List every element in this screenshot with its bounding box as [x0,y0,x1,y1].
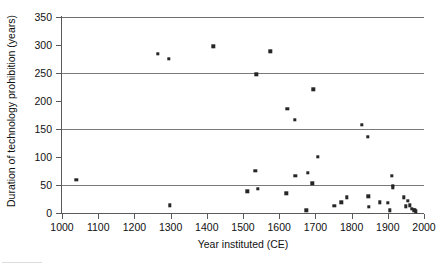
gridline-350 [62,17,424,18]
data-point [306,171,309,174]
x-tick-1300 [171,214,172,219]
x-axis-title: Year instituted (CE) [62,238,424,250]
data-point [294,174,297,177]
y-axis-title: Duration of technology prohibition (year… [0,0,22,222]
y-tick-label-text: 250 [26,68,52,79]
x-tick-label-text: 1900 [368,221,408,234]
y-tick-label-text: 0 [26,208,52,219]
data-point [391,186,394,189]
y-tick-label-0: 0 [24,208,52,219]
y-tick-300 [56,45,62,46]
y-tick-100 [56,157,62,158]
data-point [75,178,78,181]
data-point [345,196,348,199]
data-point [316,155,319,158]
data-point [256,187,259,190]
x-tick-label-1600: 1600 [259,221,299,234]
data-point [246,189,249,192]
data-point [310,182,313,185]
y-tick-label-text: 350 [26,12,52,23]
gridline-50 [62,185,424,186]
x-tick-label-1700: 1700 [295,221,335,234]
data-point [168,203,171,206]
x-tick-1700 [315,214,316,219]
data-point [333,204,336,207]
x-tick-1800 [352,214,353,219]
x-tick-label-text: 1300 [151,221,191,234]
x-tick-label-text: 1400 [187,221,227,234]
y-tick-label-300: 300 [24,40,52,51]
x-tick-label-1000: 1000 [42,221,82,234]
data-point [285,107,288,110]
data-point [366,135,369,138]
x-tick-label-text: 1600 [259,221,299,234]
x-tick-label-text: 2000 [404,221,444,234]
data-point [254,169,257,172]
x-tick-label-1500: 1500 [223,221,263,234]
x-tick-label-text: 1700 [295,221,335,234]
data-point [408,203,411,206]
data-point [293,118,296,121]
data-point [255,72,258,75]
y-axis-title-text: Duration of technology prohibition (year… [5,15,17,207]
data-point [156,52,159,55]
y-tick-label-text: 100 [26,152,52,163]
plot-area [62,17,424,213]
x-tick-label-text: 1800 [332,221,372,234]
data-point [402,196,405,199]
y-tick-150 [56,129,62,130]
x-tick-label-1100: 1100 [78,221,118,234]
y-tick-label-100: 100 [24,152,52,163]
gridline-250 [62,73,424,74]
data-point [414,210,417,213]
y-tick-label-150: 150 [24,124,52,135]
x-tick-label-text: 1000 [42,221,82,234]
x-tick-label-1300: 1300 [151,221,191,234]
y-tick-label-350: 350 [24,12,52,23]
data-point [268,49,271,52]
x-tick-2000 [424,214,425,219]
y-tick-label-text: 200 [26,96,52,107]
y-tick-50 [56,185,62,186]
x-tick-label-text: 1500 [223,221,263,234]
y-tick-250 [56,73,62,74]
x-tick-1100 [98,214,99,219]
y-tick-label-text: 150 [26,124,52,135]
y-tick-label-text: 300 [26,40,52,51]
data-point [388,208,391,211]
data-point [378,201,381,204]
scan-artifact-line [2,262,42,263]
data-point [285,192,288,195]
data-point [305,208,308,211]
x-tick-label-1900: 1900 [368,221,408,234]
x-tick-1000 [62,214,63,219]
gridline-150 [62,129,424,130]
x-tick-label-1200: 1200 [114,221,154,234]
data-point [360,123,363,126]
y-tick-350 [56,17,62,18]
x-tick-1500 [243,214,244,219]
data-point [167,57,170,60]
x-tick-label-1800: 1800 [332,221,372,234]
data-point [404,205,407,208]
x-tick-label-text: 1200 [114,221,154,234]
y-tick-200 [56,101,62,102]
y-tick-label-50: 50 [24,180,52,191]
data-point [386,201,389,204]
x-tick-label-1400: 1400 [187,221,227,234]
data-point [340,201,343,204]
x-tick-1400 [207,214,208,219]
x-tick-label-text: 1100 [78,221,118,234]
data-point [406,199,409,202]
data-point [367,194,370,197]
data-point [390,174,393,177]
scatter-chart-figure: Duration of technology prohibition (year… [0,0,444,266]
x-tick-label-2000: 2000 [404,221,444,234]
y-tick-label-200: 200 [24,96,52,107]
data-point [212,44,215,47]
data-point [367,205,370,208]
data-point [312,88,315,91]
x-tick-1600 [279,214,280,219]
y-tick-label-text: 50 [26,180,52,191]
x-tick-1200 [134,214,135,219]
